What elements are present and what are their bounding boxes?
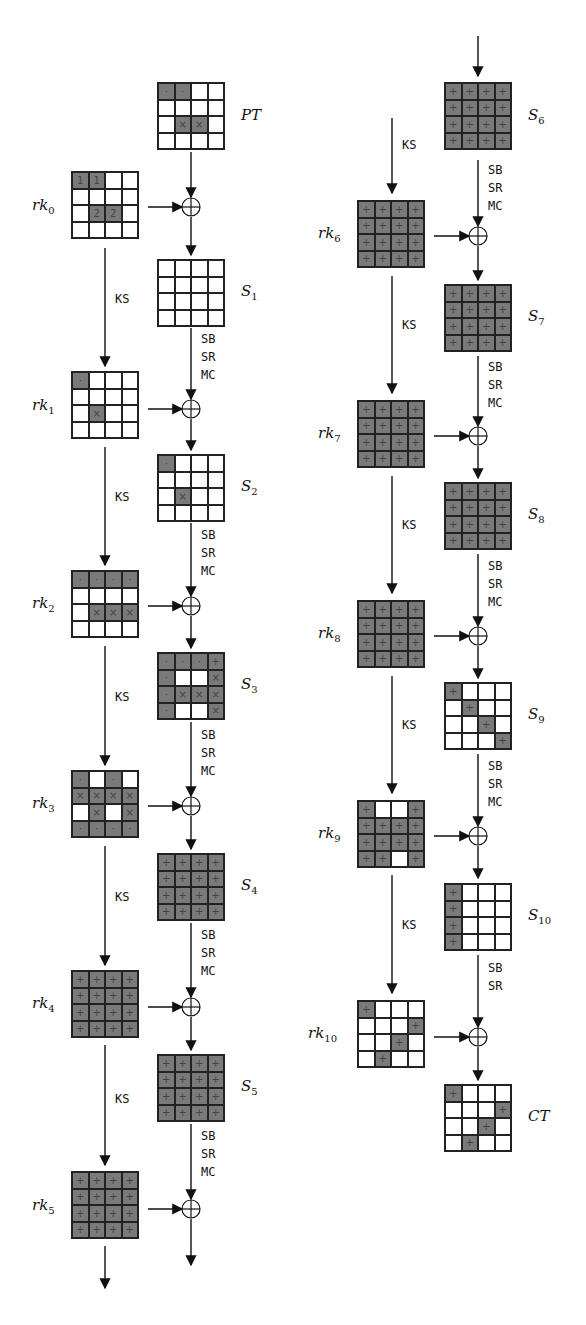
active-byte-cell: × [208, 703, 225, 720]
inactive-byte-cell [462, 1118, 479, 1135]
inactive-byte-cell [358, 1018, 375, 1035]
inactive-byte-cell [462, 901, 479, 918]
inactive-byte-cell [391, 1018, 408, 1035]
state-grid: ++++ [444, 682, 512, 750]
active-byte-cell: + [462, 285, 479, 302]
active-byte-cell: + [191, 904, 208, 921]
inactive-byte-cell [191, 293, 208, 310]
inactive-byte-cell [462, 917, 479, 934]
inactive-byte-cell [72, 189, 89, 206]
round-key-grid: ++++ [357, 1000, 425, 1068]
active-byte-cell: + [375, 634, 392, 651]
active-byte-cell: + [122, 988, 139, 1005]
active-byte-cell: + [72, 1189, 89, 1206]
active-byte-cell: · [105, 771, 122, 788]
key-schedule-label: KS [402, 316, 416, 334]
active-byte-cell: + [445, 901, 462, 918]
inactive-byte-cell [208, 260, 225, 277]
active-byte-cell: + [175, 1105, 192, 1122]
active-byte-cell: 2 [89, 205, 106, 222]
inactive-byte-cell [478, 1085, 495, 1102]
active-byte-cell: · [89, 571, 106, 588]
active-byte-cell: + [158, 1055, 175, 1072]
key-schedule-label: KS [402, 136, 416, 154]
active-byte-cell: + [358, 651, 375, 668]
inactive-byte-cell [89, 189, 106, 206]
inactive-byte-cell [478, 884, 495, 901]
active-byte-cell: + [478, 302, 495, 319]
active-byte-cell: × [175, 488, 192, 505]
active-byte-cell: · [158, 670, 175, 687]
state-label: S1 [241, 282, 258, 302]
active-byte-cell: + [158, 1105, 175, 1122]
state-grid: ++++++++++++++++ [157, 1054, 225, 1122]
active-byte-cell: + [462, 116, 479, 133]
inactive-byte-cell [175, 670, 192, 687]
inactive-byte-cell [72, 588, 89, 605]
inactive-byte-cell [158, 260, 175, 277]
inactive-byte-cell [105, 389, 122, 406]
active-byte-cell: + [478, 133, 495, 150]
xor-icon [469, 1028, 487, 1046]
round-key-label: rk6 [318, 224, 341, 244]
inactive-byte-cell [122, 372, 139, 389]
active-byte-cell: + [158, 904, 175, 921]
inactive-byte-cell [105, 172, 122, 189]
active-byte-cell: + [478, 500, 495, 517]
state-label: S8 [528, 505, 545, 525]
inactive-byte-cell [208, 293, 225, 310]
state-grid: ···+·×·×××·× [157, 652, 225, 720]
state-label: S3 [241, 675, 258, 695]
active-byte-cell: + [445, 1085, 462, 1102]
active-byte-cell: + [158, 854, 175, 871]
inactive-byte-cell [158, 277, 175, 294]
active-byte-cell: + [122, 1205, 139, 1222]
active-byte-cell: + [478, 516, 495, 533]
active-byte-cell: + [408, 418, 425, 435]
active-byte-cell: + [158, 887, 175, 904]
active-byte-cell: + [391, 251, 408, 268]
active-byte-cell: + [175, 887, 192, 904]
active-byte-cell: + [72, 1205, 89, 1222]
active-byte-cell: + [358, 218, 375, 235]
inactive-byte-cell [191, 310, 208, 327]
inactive-byte-cell [478, 700, 495, 717]
inactive-byte-cell [495, 934, 512, 951]
active-byte-cell: + [358, 251, 375, 268]
inactive-byte-cell [375, 1034, 392, 1051]
active-byte-cell: + [445, 500, 462, 517]
inactive-byte-cell [72, 405, 89, 422]
active-byte-cell: + [72, 971, 89, 988]
active-byte-cell: + [191, 1072, 208, 1089]
active-byte-cell: + [158, 1072, 175, 1089]
inactive-byte-cell [462, 733, 479, 750]
active-byte-cell: + [358, 234, 375, 251]
inactive-byte-cell [158, 310, 175, 327]
active-byte-cell: · [122, 571, 139, 588]
key-schedule-label: KS [115, 488, 129, 506]
inactive-byte-cell [408, 1001, 425, 1018]
active-byte-cell: + [391, 434, 408, 451]
xor-icon [469, 627, 487, 645]
round-key-label: rk0 [32, 196, 55, 216]
active-byte-cell: + [495, 116, 512, 133]
active-byte-cell: + [89, 1222, 106, 1239]
active-byte-cell: + [462, 500, 479, 517]
round-key-label: rk7 [318, 424, 341, 444]
active-byte-cell: × [89, 788, 106, 805]
active-byte-cell: + [208, 904, 225, 921]
key-schedule-label: KS [115, 290, 129, 308]
inactive-byte-cell [122, 771, 139, 788]
active-byte-cell: + [495, 733, 512, 750]
inactive-byte-cell [89, 389, 106, 406]
active-byte-cell: · [72, 821, 89, 838]
inactive-byte-cell [445, 1102, 462, 1119]
active-byte-cell: + [408, 401, 425, 418]
round-ops: SBSRMC [488, 161, 502, 215]
inactive-byte-cell [158, 472, 175, 489]
active-byte-cell: + [208, 887, 225, 904]
active-byte-cell: + [175, 871, 192, 888]
inactive-byte-cell [175, 455, 192, 472]
key-schedule-label: KS [402, 916, 416, 934]
active-byte-cell: + [158, 1088, 175, 1105]
